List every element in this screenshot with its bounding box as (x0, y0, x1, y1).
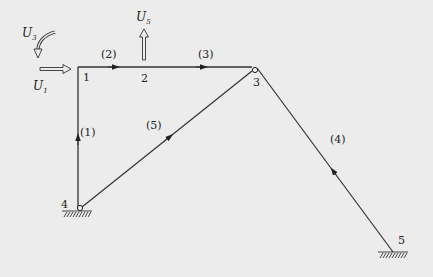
frame-diagram: U1 U3 U5 1 2 3 4 5 (1) (2) (3) (4) (5) (0, 0, 433, 277)
node-label-5: 5 (398, 234, 405, 247)
hinge-node-4 (77, 205, 82, 210)
dof-u3-arrow (34, 32, 55, 58)
member-4 (257, 68, 393, 252)
support-node-5 (378, 252, 408, 258)
dof-u5-label: U5 (136, 10, 151, 26)
node-label-3: 3 (253, 76, 260, 89)
hinge-node-3 (252, 67, 257, 72)
node-label-1: 1 (83, 71, 90, 84)
node-label-2: 2 (141, 72, 148, 85)
member-label-3: (3) (198, 48, 214, 61)
dof-u5-arrow (140, 29, 149, 60)
dof-u1-arrow (40, 65, 71, 74)
dof-u3-label: U3 (22, 26, 37, 42)
member-label-5: (5) (146, 119, 162, 132)
member-5 (82, 71, 252, 207)
dof-u1-label: U1 (33, 79, 48, 95)
support-node-4 (62, 211, 92, 217)
node-label-4: 4 (61, 198, 68, 211)
member-label-2: (2) (101, 48, 117, 61)
member-label-4: (4) (330, 133, 346, 146)
member-label-1: (1) (80, 126, 96, 139)
